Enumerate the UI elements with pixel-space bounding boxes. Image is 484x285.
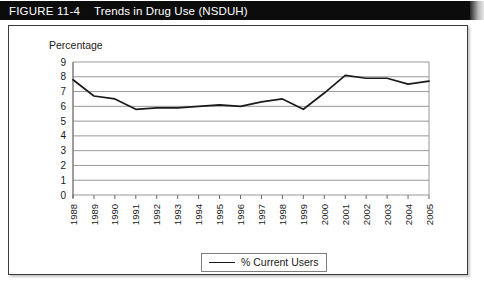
y-axis-tick-label: 6 xyxy=(60,101,66,112)
x-axis-tick-label: 1992 xyxy=(151,204,162,225)
y-axis-tick-label: 5 xyxy=(60,116,66,127)
y-axis-tick-label: 8 xyxy=(60,71,66,82)
figure-title: Trends in Drug Use (NSDUH) xyxy=(80,5,248,17)
x-axis-tick-label: 1998 xyxy=(277,204,288,225)
x-axis-tick-label: 2000 xyxy=(319,204,330,225)
chart-plot-area: 0123456789 19881989199019911992199319941… xyxy=(9,26,467,274)
x-axis-tick-labels: 1988198919901991199219931994199519961997… xyxy=(68,204,435,225)
figure-panel: Percentage 0123456789 198819891990199119… xyxy=(8,25,468,275)
data-series-line xyxy=(73,75,429,109)
chart-legend: % Current Users xyxy=(201,253,327,272)
x-axis-tick-label: 1993 xyxy=(172,204,183,225)
x-axis-tick-label: 1999 xyxy=(298,204,309,225)
y-axis-tick-label: 1 xyxy=(60,175,66,186)
y-axis-tick-label: 3 xyxy=(60,145,66,156)
x-axis-tick-label: 1997 xyxy=(256,204,267,225)
x-axis-tick-label: 1994 xyxy=(193,204,204,225)
y-axis-tick-label: 0 xyxy=(60,190,66,201)
figure-root: FIGURE 11-4 Trends in Drug Use (NSDUH) P… xyxy=(0,0,484,285)
y-axis-tick-label: 7 xyxy=(60,86,66,97)
x-axis-tick-label: 1996 xyxy=(235,204,246,225)
x-axis-tick-label: 1988 xyxy=(68,204,79,225)
x-axis-tick-label: 1995 xyxy=(214,204,225,225)
x-axis-tick-label: 2003 xyxy=(382,204,393,225)
legend-label: % Current Users xyxy=(241,256,319,268)
x-axis-tick-marks xyxy=(73,195,429,199)
x-axis-tick-label: 2001 xyxy=(340,204,351,225)
figure-header: FIGURE 11-4 Trends in Drug Use (NSDUH) xyxy=(0,1,470,20)
chart-gridlines xyxy=(73,62,429,198)
x-axis-tick-label: 1991 xyxy=(130,204,141,225)
y-axis-tick-label: 4 xyxy=(60,130,66,141)
y-axis-tick-labels: 0123456789 xyxy=(60,57,66,201)
x-axis-tick-label: 2002 xyxy=(361,204,372,225)
x-axis-tick-label: 1989 xyxy=(89,204,100,225)
line-chart: Percentage 0123456789 198819891990199119… xyxy=(9,26,467,274)
x-axis-tick-label: 1990 xyxy=(109,204,120,225)
legend-line-swatch xyxy=(209,262,235,263)
y-axis-tick-label: 9 xyxy=(60,57,66,68)
y-axis-tick-label: 2 xyxy=(60,160,66,171)
figure-number: FIGURE 11-4 xyxy=(0,5,80,17)
x-axis-tick-label: 2005 xyxy=(424,204,435,225)
header-edge-shadow xyxy=(470,1,484,20)
x-axis-tick-label: 2004 xyxy=(403,204,414,225)
